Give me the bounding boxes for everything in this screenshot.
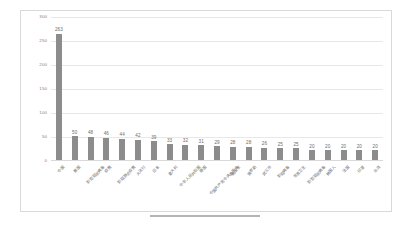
bar[interactable] xyxy=(72,136,78,160)
x-label-slot: 新冠病毒 xyxy=(272,163,288,211)
plot-wrapper: 050100150200250300 263504846444239333231… xyxy=(29,17,385,207)
bar-slot[interactable]: 31 xyxy=(193,17,209,160)
x-label-slot: 中国 xyxy=(51,163,67,211)
bar-value-label: 20 xyxy=(309,144,314,149)
y-axis-tick-label: 0 xyxy=(44,159,47,163)
bar-slot[interactable]: 263 xyxy=(51,17,67,160)
x-label-slot: 美国 xyxy=(67,163,83,211)
bar-value-label: 48 xyxy=(88,130,93,135)
bar[interactable] xyxy=(151,141,157,160)
y-axis-tick-label: 100 xyxy=(39,111,47,115)
bar[interactable] xyxy=(325,150,331,160)
y-axis-tick-label: 200 xyxy=(39,63,47,67)
bar-slot[interactable]: 32 xyxy=(178,17,194,160)
bar[interactable] xyxy=(372,150,378,160)
bar-value-label: 20 xyxy=(341,144,346,149)
bar-value-label: 44 xyxy=(120,132,125,137)
x-label-slot: 俄罗斯 xyxy=(241,163,257,211)
y-axis-tick-label: 250 xyxy=(39,39,47,43)
bar[interactable] xyxy=(356,150,362,160)
bar-slot[interactable]: 39 xyxy=(146,17,162,160)
bar[interactable] xyxy=(56,34,62,160)
x-label-slot: 日本 xyxy=(146,163,162,211)
bar-value-label: 25 xyxy=(278,142,283,147)
bar-slot[interactable]: 25 xyxy=(288,17,304,160)
bar-value-label: 50 xyxy=(72,130,77,135)
x-axis-tick-label: 台湾 xyxy=(373,165,382,174)
x-label-slot: 英国家 xyxy=(225,163,241,211)
bar-value-label: 29 xyxy=(214,140,219,145)
bar-slot[interactable]: 33 xyxy=(162,17,178,160)
x-axis-tick-label: 日本 xyxy=(152,165,161,174)
bar[interactable] xyxy=(167,144,173,160)
x-axis-tick-label: 中国 xyxy=(57,165,66,174)
x-label-slot: 德国 xyxy=(193,163,209,211)
bar-value-label: 31 xyxy=(199,139,204,144)
legend-strip xyxy=(150,214,260,218)
bar[interactable] xyxy=(341,150,347,160)
x-label-slot: 中国共产党中央委员会 xyxy=(209,163,225,211)
bar-value-label: 32 xyxy=(183,138,188,143)
y-axis-tick-label: 300 xyxy=(39,15,47,19)
x-axis-line xyxy=(51,160,383,161)
x-label-slot: 武汉市 xyxy=(257,163,273,211)
bar[interactable] xyxy=(293,148,299,160)
bar-value-label: 26 xyxy=(262,141,267,146)
bar-value-label: 20 xyxy=(357,144,362,149)
bar[interactable] xyxy=(103,138,109,160)
y-axis: 050100150200250300 xyxy=(29,17,49,161)
x-label-slot: 新冠肺炎疫情 xyxy=(114,163,130,211)
x-axis-tick-label: 法国 xyxy=(342,165,351,174)
bar-slot[interactable]: 20 xyxy=(351,17,367,160)
x-label-slot: 韩国人 xyxy=(320,163,336,211)
x-axis-tick-label: 德国 xyxy=(200,165,209,174)
bar[interactable] xyxy=(88,137,94,160)
bar[interactable] xyxy=(309,150,315,160)
bar-value-label: 42 xyxy=(135,133,140,138)
bar-slot[interactable]: 20 xyxy=(320,17,336,160)
x-label-slot: 新型冠状病毒 xyxy=(304,163,320,211)
bar-slot[interactable]: 42 xyxy=(130,17,146,160)
bar-value-label: 263 xyxy=(55,27,63,32)
bar-slot[interactable]: 28 xyxy=(225,17,241,160)
bar-value-label: 46 xyxy=(104,131,109,136)
bar[interactable] xyxy=(230,147,236,160)
bar-slot[interactable]: 28 xyxy=(241,17,257,160)
bar-slot[interactable]: 48 xyxy=(83,17,99,160)
bar-value-label: 25 xyxy=(293,142,298,147)
x-axis-tick-label: 疫情 xyxy=(105,165,114,174)
x-label-slot: 印度 xyxy=(351,163,367,211)
x-label-slot: 新型冠状病毒 xyxy=(83,163,99,211)
bar-slot[interactable]: 44 xyxy=(114,17,130,160)
bar-value-label: 20 xyxy=(373,144,378,149)
bar-value-label: 33 xyxy=(167,138,172,143)
bar-slot[interactable]: 20 xyxy=(304,17,320,160)
x-label-slot: 中华人民共和国 xyxy=(178,163,194,211)
x-label-slot: 疫情 xyxy=(98,163,114,211)
bar-slot[interactable]: 20 xyxy=(336,17,352,160)
bar-slot[interactable]: 50 xyxy=(67,17,83,160)
bar-slot[interactable]: 46 xyxy=(98,17,114,160)
x-label-slot: 世界卫生 xyxy=(288,163,304,211)
bar[interactable] xyxy=(198,145,204,160)
bar-slot[interactable]: 29 xyxy=(209,17,225,160)
bar[interactable] xyxy=(214,146,220,160)
bar-slot[interactable]: 26 xyxy=(257,17,273,160)
bar-value-label: 28 xyxy=(246,140,251,145)
x-label-slot: 大流行 xyxy=(130,163,146,211)
y-axis-tick-label: 50 xyxy=(42,135,47,139)
bar[interactable] xyxy=(277,148,283,160)
bar-slot[interactable]: 20 xyxy=(367,17,383,160)
bar[interactable] xyxy=(182,145,188,160)
bar[interactable] xyxy=(135,140,141,160)
bar[interactable] xyxy=(261,148,267,160)
bar-series: 2635048464442393332312928282625252020202… xyxy=(51,17,383,160)
y-axis-tick-label: 150 xyxy=(39,87,47,91)
bar-slot[interactable]: 25 xyxy=(272,17,288,160)
x-axis-labels: 中国美国新型冠状病毒疫情新冠肺炎疫情大流行日本意大利中华人民共和国德国中国共产党… xyxy=(51,163,383,211)
chart-frame: 050100150200250300 263504846444239333231… xyxy=(20,10,392,212)
bar-value-label: 28 xyxy=(230,140,235,145)
bar[interactable] xyxy=(119,139,125,160)
bar[interactable] xyxy=(246,147,252,160)
bar-value-label: 39 xyxy=(151,135,156,140)
